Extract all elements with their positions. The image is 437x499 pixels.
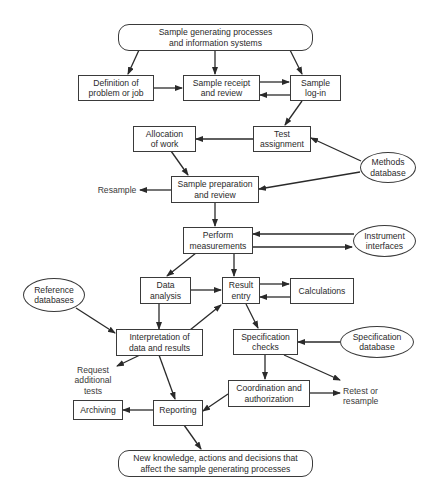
node-methods-database: Methods database xyxy=(360,152,416,183)
node-interpretation: Interpretation of data and results xyxy=(116,329,203,356)
node-sample-log-in: Sample log-in xyxy=(290,75,341,101)
node-allocation-of-work: Allocation of work xyxy=(133,126,196,152)
flowchart: Sample generating processes and informat… xyxy=(0,0,437,499)
node-perform-measurements: Perform measurements xyxy=(183,227,253,254)
node-test-assignment: Test assignment xyxy=(253,126,311,152)
node-sample-preparation: Sample preparation and review xyxy=(171,176,259,203)
node-reporting: Reporting xyxy=(153,400,203,426)
node-definition-of-problem: Definition of problem or job xyxy=(78,75,154,101)
node-data-analysis: Data analysis xyxy=(140,277,191,304)
node-specification-database: Specification database xyxy=(340,326,414,358)
node-calculations: Calculations xyxy=(290,278,354,304)
node-instrument-interfaces: Instrument interfaces xyxy=(353,225,416,257)
node-result-entry: Result entry xyxy=(222,277,260,304)
node-coordination-authorization: Coordination and authorization xyxy=(228,380,310,407)
terminal-retest-or-resample: Retest or resample xyxy=(343,386,389,407)
terminal-request-additional-tests: Request additional tests xyxy=(70,365,116,396)
node-archiving: Archiving xyxy=(73,400,123,420)
terminal-resample: Resample xyxy=(96,185,138,195)
node-reference-databases: Reference databases xyxy=(23,278,85,312)
node-sample-generating-processes: Sample generating processes and informat… xyxy=(118,24,313,51)
node-specification-checks: Specification checks xyxy=(233,329,298,355)
node-new-knowledge-outcome: New knowledge, actions and decisions tha… xyxy=(118,450,313,477)
node-sample-receipt: Sample receipt and review xyxy=(183,75,260,101)
